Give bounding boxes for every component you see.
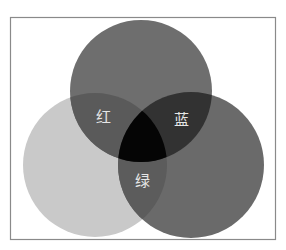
- label-red: 红: [96, 108, 111, 126]
- label-blue: 蓝: [174, 111, 189, 129]
- label-green: 绿: [135, 172, 150, 190]
- venn-diagram: 红 蓝 绿: [0, 0, 286, 250]
